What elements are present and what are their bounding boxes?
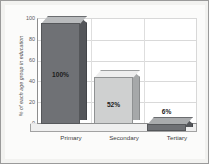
y-tick-60: 60 bbox=[19, 57, 35, 63]
x-axis-category-labels: Primary Secondary Tertiary bbox=[30, 134, 197, 146]
bar-tertiary-front-face bbox=[147, 124, 186, 131]
chart-canvas: % of each age group in education 100 80 … bbox=[5, 5, 205, 159]
y-tick-100: 100 bbox=[19, 15, 35, 21]
gridline-category-1 bbox=[91, 19, 92, 123]
bar-primary-value-label: 100% bbox=[41, 71, 80, 78]
gridline-category-2 bbox=[144, 19, 145, 123]
bar-tertiary-value-label: 6% bbox=[147, 108, 186, 115]
x-label-secondary: Secondary bbox=[94, 134, 154, 141]
bar-primary-side-face bbox=[79, 16, 87, 120]
y-tick-40: 40 bbox=[19, 78, 35, 84]
y-tick-20: 20 bbox=[19, 99, 35, 105]
y-tick-80: 80 bbox=[19, 36, 35, 42]
x-label-tertiary: Tertiary bbox=[147, 134, 207, 141]
chart-container: % of each age group in education 100 80 … bbox=[0, 0, 209, 164]
x-label-primary: Primary bbox=[41, 134, 101, 141]
bar-secondary-value-label: 52% bbox=[94, 101, 133, 108]
